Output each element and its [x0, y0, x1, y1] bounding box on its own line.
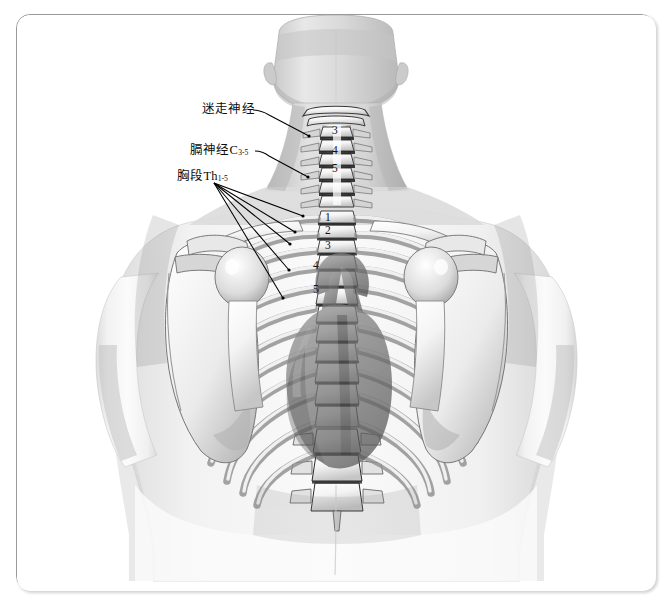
vertebra-number-c3: 3 — [332, 125, 338, 137]
figure-frame: 迷走神经 膈神经C3-5 胸段Th1-5 3 4 5 1 2 3 4 5 — [16, 14, 655, 590]
vertebra-number-th2: 2 — [325, 225, 331, 237]
head-occiput — [264, 15, 408, 113]
vertebra-number-th3: 3 — [325, 240, 331, 252]
label-vagus-nerve: 迷走神经 — [202, 103, 255, 116]
figure-page: 迷走神经 膈神经C3-5 胸段Th1-5 3 4 5 1 2 3 4 5 — [0, 0, 671, 606]
vertebra-number-th5: 5 — [313, 284, 319, 296]
label-phrenic-nerve: 膈神经C3-5 — [190, 144, 248, 157]
illustration-plate: 迷走神经 膈神经C3-5 胸段Th1-5 3 4 5 1 2 3 4 5 — [17, 15, 656, 591]
vertebra-number-c5: 5 — [332, 163, 338, 175]
label-thoracic-segments: 胸段Th1-5 — [177, 170, 228, 183]
vertebra-number-c4: 4 — [332, 145, 338, 157]
vertebra-number-th1: 1 — [325, 212, 331, 224]
vertebra-number-th4: 4 — [313, 260, 319, 272]
anatomy-illustration — [17, 15, 656, 591]
